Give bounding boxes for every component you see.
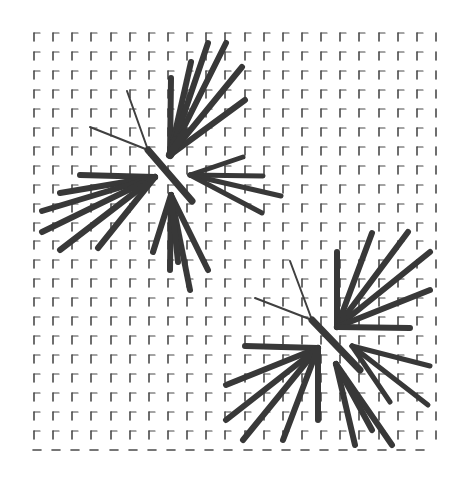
diagram-svg [0,0,464,479]
thin-ray [90,127,148,150]
thin-ray [127,91,148,150]
fan-left [42,175,155,250]
fan-ray [337,327,410,328]
fan-bottom [336,364,392,445]
fan-bottom [153,195,208,290]
thin-ray [290,261,312,320]
fan-top-right [337,232,430,328]
lower-burst [226,232,430,445]
burst-clusters [42,43,430,445]
fan-ray [190,175,262,213]
dot-grid [33,33,436,450]
fan-ray [190,157,243,175]
fan-ray [245,346,318,348]
burst-diagram [0,0,464,479]
